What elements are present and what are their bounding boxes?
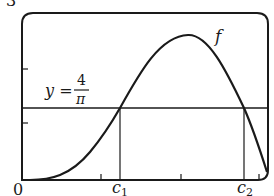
figure: 3 f y = 4 π 0 c1 c2 xyxy=(0,0,274,196)
curve-label-f: f xyxy=(213,26,224,46)
y-top-label: 3 xyxy=(6,0,16,10)
hline-label-num: 4 xyxy=(77,72,86,88)
c1-subscript: 1 xyxy=(121,186,128,196)
c1-letter: c xyxy=(112,178,121,196)
origin-label: 0 xyxy=(13,180,23,196)
c2-subscript: 2 xyxy=(246,186,253,196)
hline-label-den: π xyxy=(75,91,86,107)
c2-letter: c xyxy=(237,178,246,196)
hline-label-lhs: y = xyxy=(44,81,73,100)
